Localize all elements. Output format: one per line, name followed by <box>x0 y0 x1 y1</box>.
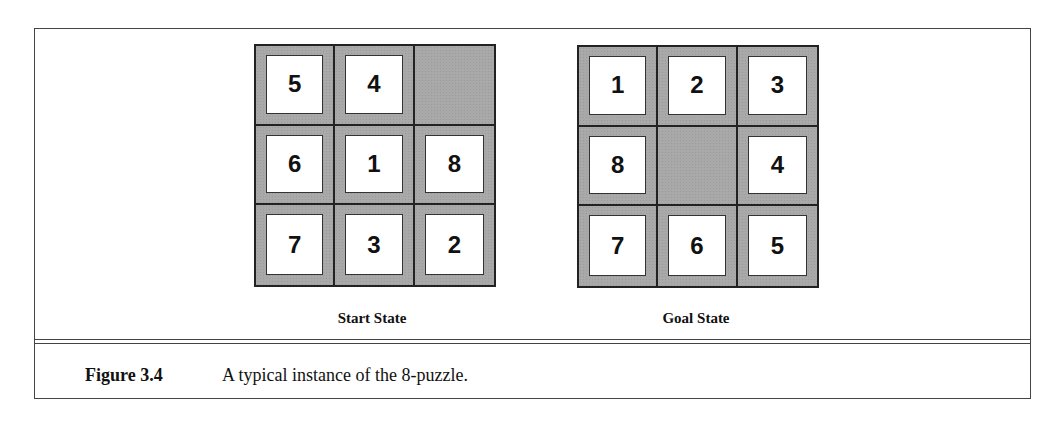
tile: 7 <box>589 215 646 276</box>
goal-state-board: 12384765 <box>577 45 819 288</box>
board-cell: 6 <box>256 126 335 206</box>
tile: 4 <box>345 55 402 114</box>
board-cell: 3 <box>738 47 817 127</box>
caption-divider-top <box>34 339 1031 340</box>
tile: 2 <box>425 214 484 275</box>
tile: 6 <box>266 135 323 194</box>
tile: 8 <box>425 135 484 194</box>
tile: 6 <box>668 215 725 276</box>
tile: 3 <box>748 56 807 115</box>
board-cell: 8 <box>579 127 658 207</box>
tile: 3 <box>345 214 402 275</box>
start-state-label: Start State <box>251 310 493 327</box>
tile: 1 <box>589 56 646 115</box>
blank-cell <box>658 127 737 207</box>
caption-divider-bottom <box>34 343 1031 344</box>
figure-number: Figure 3.4 <box>85 365 163 386</box>
tile: 5 <box>266 55 323 114</box>
board-cell: 3 <box>335 205 414 285</box>
tile: 8 <box>589 136 646 195</box>
tile: 7 <box>266 214 323 275</box>
figure-caption: A typical instance of the 8-puzzle. <box>222 365 468 386</box>
blank-cell <box>415 46 494 126</box>
board-cell: 2 <box>415 205 494 285</box>
board-cell: 8 <box>415 126 494 206</box>
board-cell: 4 <box>335 46 414 126</box>
board-cell: 1 <box>335 126 414 206</box>
board-cell: 5 <box>738 206 817 286</box>
tile: 1 <box>345 135 402 194</box>
tile: 4 <box>748 136 807 195</box>
board-cell: 2 <box>658 47 737 127</box>
board-cell: 4 <box>738 127 817 207</box>
tile: 2 <box>668 56 725 115</box>
board-cell: 1 <box>579 47 658 127</box>
tile: 5 <box>748 215 807 276</box>
board-cell: 5 <box>256 46 335 126</box>
start-state-board: 54618732 <box>254 44 496 287</box>
board-cell: 7 <box>579 206 658 286</box>
board-cell: 7 <box>256 205 335 285</box>
board-cell: 6 <box>658 206 737 286</box>
goal-state-label: Goal State <box>575 310 817 327</box>
